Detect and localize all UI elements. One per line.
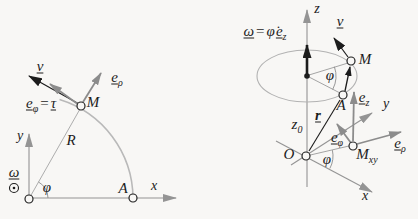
diagram-svg [0,0,418,219]
vector-A-to-M-arrow [345,67,350,91]
radius-line-to-M [309,63,348,75]
angle-phi-arc-base [330,150,333,168]
circle-center-dot [304,73,310,79]
omega-out-of-plane-icon [10,184,19,193]
figure-canvas: v eφ=τ eρ M R y x φ A ω z ω=φ̇ez v M φ A… [0,0,418,219]
origin-marker [25,195,33,203]
unit-vector-e-rho-arrow-3d [357,132,401,144]
unit-vector-e-z-arrow [353,92,354,141]
point-A-marker [129,194,137,202]
point-A-marker-3d [339,91,347,99]
right-diagram [257,10,401,192]
left-diagram [10,73,177,203]
unit-vector-e-rho-arrow [83,73,101,102]
radius-line-to-A [309,77,340,93]
point-Mxy-marker [349,142,357,150]
velocity-vector-arrow-3d [334,38,348,57]
origin-O-marker [302,152,310,160]
point-M-marker [77,102,85,110]
angle-phi-arc-circle-plane [333,67,336,90]
angle-phi-arc [39,182,49,198]
x-axis-3d [276,141,372,192]
radius-line [30,109,80,197]
circular-path-arc [60,100,134,199]
point-M-marker-3d [347,57,355,65]
